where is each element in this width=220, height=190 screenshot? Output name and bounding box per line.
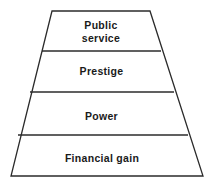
pyramid-shape — [0, 0, 220, 190]
trapezoid-outline — [11, 11, 203, 176]
pyramid-diagram: Public service Prestige Power Financial … — [0, 0, 220, 190]
